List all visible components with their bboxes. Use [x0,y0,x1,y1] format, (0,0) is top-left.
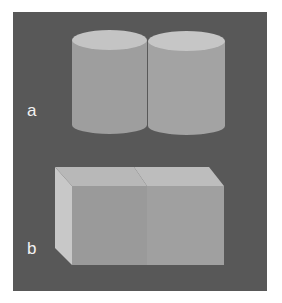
figure-illustration [0,0,282,303]
cylinder-right [148,31,225,135]
cube-right [134,167,224,265]
panel-label-a: a [27,102,36,119]
cylinder-left [72,30,147,134]
panel-label-b: b [27,240,36,257]
cube-left [55,167,147,265]
